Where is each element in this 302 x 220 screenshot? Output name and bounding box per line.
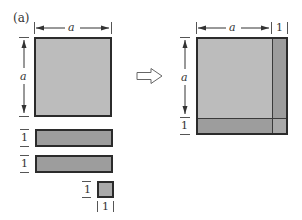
bottom-strip — [198, 118, 272, 134]
composite-height-a-label: a — [181, 72, 188, 83]
right-strip — [272, 39, 287, 118]
corner-unit-square — [272, 118, 287, 134]
composite-square — [196, 37, 288, 135]
composite-height-1-label: 1 — [181, 120, 188, 131]
